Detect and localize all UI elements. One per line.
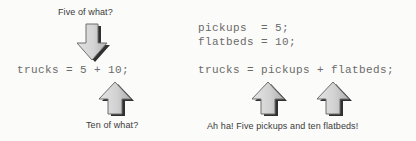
code-line-trucks-literal: trucks = 5 + 10; <box>17 63 129 77</box>
up-arrow-icon <box>96 80 136 118</box>
caption-five-of-what: Five of what? <box>58 7 113 18</box>
caption-ah-ha: Ah ha! Five pickups and ten flatbeds! <box>207 121 358 132</box>
code-line-flatbeds-declaration: flatbeds = 10; <box>198 35 296 49</box>
down-arrow-icon <box>74 21 110 63</box>
caption-ten-of-what: Ten of what? <box>86 120 138 131</box>
diagram-canvas: Five of what? trucks = 5 + 10; <box>0 0 416 141</box>
code-line-pickups-declaration: pickups = 5; <box>198 21 289 35</box>
up-arrow-icon <box>249 80 289 118</box>
code-line-trucks-variables: trucks = pickups + flatbeds; <box>198 63 394 77</box>
up-arrow-icon <box>314 80 354 118</box>
